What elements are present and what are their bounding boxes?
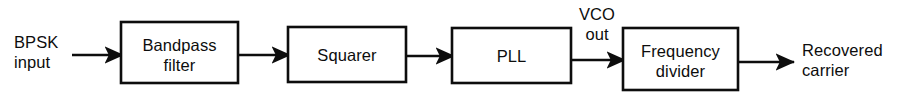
label-vco-out: VCO out <box>579 5 615 43</box>
block-frequency-divider-label-line2: divider <box>656 62 706 80</box>
block-pll-label-line1: PLL <box>497 47 527 65</box>
block-bandpass-filter[interactable]: Bandpass filter <box>121 22 238 83</box>
block-bandpass-filter-label-line2: filter <box>164 56 196 74</box>
label-bpsk-input-line1: BPSK <box>14 33 58 51</box>
label-bpsk-input: BPSK input <box>14 33 58 71</box>
block-pll[interactable]: PLL <box>452 28 571 83</box>
label-vco-out-line1: VCO <box>579 5 615 23</box>
block-diagram-figure: Bandpass filter Squarer PLL Frequency di… <box>0 0 900 105</box>
label-recovered-carrier-line2: carrier <box>802 61 850 79</box>
block-bandpass-filter-label-line1: Bandpass <box>142 36 216 54</box>
block-frequency-divider[interactable]: Frequency divider <box>623 28 738 90</box>
label-recovered-carrier-line1: Recovered <box>802 41 883 59</box>
label-bpsk-input-line2: input <box>14 53 51 71</box>
block-squarer[interactable]: Squarer <box>288 27 406 82</box>
diagram-canvas: Bandpass filter Squarer PLL Frequency di… <box>0 0 900 105</box>
label-recovered-carrier: Recovered carrier <box>802 41 883 79</box>
label-vco-out-line2: out <box>585 25 609 43</box>
block-squarer-label-line1: Squarer <box>317 46 377 64</box>
block-frequency-divider-label-line1: Frequency <box>641 42 721 60</box>
